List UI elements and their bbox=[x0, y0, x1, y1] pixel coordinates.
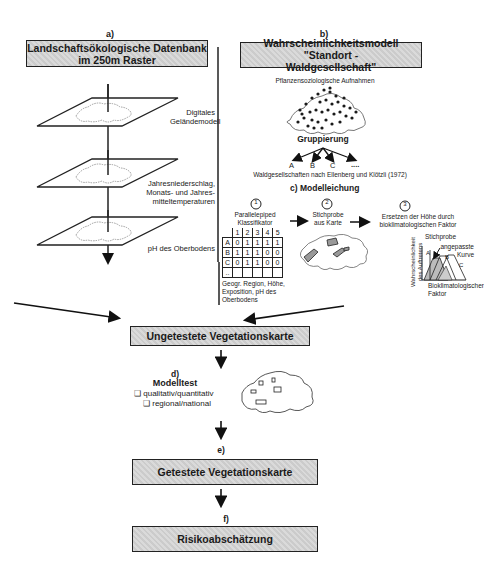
step-2-number: 2 bbox=[322, 199, 332, 205]
classifier-table: 1 2 3 4 5 A 01 11 1 B 11 10 0 C 01 10 0 … bbox=[222, 228, 283, 278]
test-regions-map bbox=[242, 371, 313, 412]
groups-caption: Waldgesellschaften nach Ellenberg und Kl… bbox=[245, 171, 415, 179]
layer-label-climate: Jahresniederschlag, Monats- und Jahres- … bbox=[130, 179, 215, 206]
landscape-database-title-line1: Landschaftsökologische Datenbank bbox=[27, 42, 207, 54]
step-1-number: 1 bbox=[251, 199, 261, 205]
sample-map bbox=[300, 234, 367, 269]
curve-xlabel: Bioklimatologischer Faktor bbox=[428, 282, 478, 298]
survey-label: Pflanzensoziologische Aufnahmen bbox=[270, 77, 380, 85]
landscape-database-title-line2: im 250m Raster bbox=[27, 54, 207, 66]
step-3-number: 3 bbox=[400, 201, 410, 207]
checkbox-icon: ❑ bbox=[143, 399, 150, 408]
classifier-row: B 11 10 0 bbox=[223, 248, 283, 258]
curve-b-label: B bbox=[445, 254, 449, 260]
risk-assessment-box: Risikoabschätzung bbox=[132, 526, 318, 552]
arrow-a-to-map bbox=[14, 303, 118, 318]
step-1-label: Parallelepiped Klassifikator bbox=[225, 211, 285, 227]
section-e-letter: e) bbox=[211, 445, 231, 455]
grouping-arrows bbox=[294, 148, 355, 161]
section-a-letter: a) bbox=[100, 29, 120, 39]
classifier-row: A 01 11 1 bbox=[223, 238, 283, 248]
section-c-title: c) Modelleichung bbox=[290, 183, 380, 193]
classifier-caption: Geogr. Region, Höhe, Exposition, pH des … bbox=[222, 280, 297, 304]
probability-model-title-line2: Waldgesellschaft" bbox=[241, 61, 421, 73]
untested-vegetation-map-box: Ungetestete Vegetationskarte bbox=[130, 326, 310, 346]
group-a: A bbox=[289, 161, 299, 170]
curve-ylabel: Wahrscheinlichkeit des Auftretens bbox=[410, 227, 424, 297]
curve-a-label: A bbox=[426, 250, 430, 256]
fitted-curve-label: angepasste Kurve bbox=[434, 243, 474, 259]
grouping-label: Gruppierung bbox=[290, 134, 356, 144]
tested-vegetation-map-box: Getestete Vegetationskarte bbox=[132, 459, 318, 485]
layer-label-elevation: Digitales Geländemodell bbox=[170, 108, 215, 126]
modeltest-option-2: ❑ regional/national bbox=[143, 399, 243, 409]
landscape-database-box: Landschaftsökologische Datenbank im 250m… bbox=[26, 40, 208, 67]
classifier-row: C 01 10 0 bbox=[223, 258, 283, 268]
classifier-row: .. bbox=[223, 268, 283, 278]
survey-points-map bbox=[287, 86, 365, 134]
modeltest-option-1: ❑ qualitativ/quantitativ bbox=[134, 389, 234, 399]
probability-model-box: Wahrscheinlichkeitsmodell "Standort - Wa… bbox=[240, 42, 422, 68]
arrow-b-to-map bbox=[246, 306, 344, 320]
probability-model-title-line1: Wahrscheinlichkeitsmodell "Standort - bbox=[241, 37, 421, 61]
layer-label-soil-ph: pH des Oberbodens bbox=[130, 244, 215, 253]
curve-c-label: C bbox=[459, 262, 463, 268]
checkbox-icon: ❑ bbox=[134, 389, 141, 398]
section-f-letter: f) bbox=[216, 514, 236, 524]
group-more: .... bbox=[351, 160, 365, 169]
step-2-label: Stichprobe aus Karte bbox=[308, 211, 348, 227]
sample-label: Stichprobe bbox=[425, 233, 475, 241]
group-b: B bbox=[310, 161, 320, 170]
modeltest-title: Modelltest bbox=[140, 378, 210, 388]
group-c: C bbox=[330, 161, 340, 170]
